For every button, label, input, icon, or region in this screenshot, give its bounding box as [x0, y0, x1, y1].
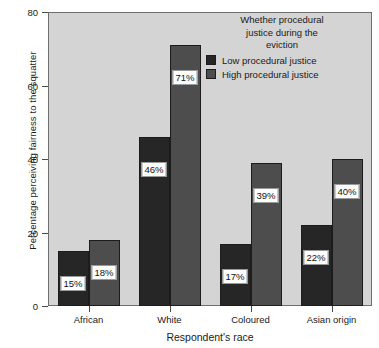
bar-value-label: 40%	[334, 184, 359, 199]
legend-swatch-low-icon	[206, 55, 216, 65]
x-tick-mark	[89, 306, 90, 312]
legend-title: Whether procedural justice during the ev…	[196, 14, 368, 52]
x-axis-title: Respondent's race	[48, 331, 372, 343]
legend-label-low: Low procedural justice	[222, 55, 317, 66]
x-tick-mark	[332, 306, 333, 312]
legend: Whether procedural justice during the ev…	[196, 14, 368, 83]
x-tick-label: African	[44, 314, 134, 325]
x-tick-label: Coloured	[206, 314, 296, 325]
x-tick-label: White	[125, 314, 215, 325]
x-tick-label: Asian origin	[287, 314, 377, 325]
legend-item-low[interactable]: Low procedural justice	[206, 55, 368, 66]
bar-value-label: 46%	[141, 162, 166, 177]
y-tick-label: 60	[8, 80, 38, 91]
bar-value-label: 17%	[222, 269, 247, 284]
y-tick-label: 0	[8, 301, 38, 312]
legend-label-high: High procedural justice	[222, 69, 319, 80]
y-tick-mark	[42, 12, 48, 13]
bar-chart: Percentage perceiving fairness to the sq…	[0, 0, 379, 348]
bar-value-label: 15%	[60, 276, 85, 291]
y-tick-label: 40	[8, 154, 38, 165]
y-tick-label: 20	[8, 227, 38, 238]
y-tick-mark	[42, 159, 48, 160]
bar[interactable]	[332, 159, 363, 306]
legend-swatch-high-icon	[206, 69, 216, 79]
legend-title-line-1: Whether procedural	[196, 14, 368, 27]
bar-value-label: 18%	[91, 265, 116, 280]
y-tick-label: 80	[8, 7, 38, 18]
x-tick-mark	[170, 306, 171, 312]
bar-value-label: 39%	[253, 188, 278, 203]
legend-item-high[interactable]: High procedural justice	[206, 69, 368, 80]
bar[interactable]	[251, 163, 282, 306]
bar-value-label: 71%	[172, 70, 197, 85]
y-tick-mark	[42, 233, 48, 234]
y-tick-mark	[42, 306, 48, 307]
y-tick-mark	[42, 86, 48, 87]
bar-value-label: 22%	[303, 250, 328, 265]
legend-title-line-3: eviction	[196, 39, 368, 52]
legend-title-line-2: justice during the	[196, 27, 368, 40]
bar[interactable]	[301, 225, 332, 306]
y-axis-title: Percentage perceiving fairness to the sq…	[27, 1, 38, 301]
x-tick-mark	[251, 306, 252, 312]
